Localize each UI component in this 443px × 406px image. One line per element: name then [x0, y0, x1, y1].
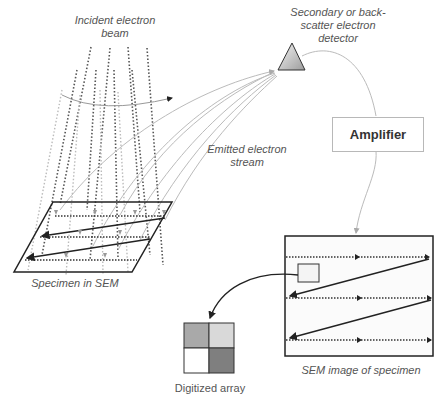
detector-icon: [278, 43, 305, 70]
detector-to-amplifier-connector: [302, 51, 376, 116]
amplifier-box: Amplifier: [332, 117, 424, 152]
sem-image-label: SEM image of specimen: [296, 364, 426, 377]
amplifier-to-image-connector: [356, 151, 376, 233]
specimen-label: Specimen in SEM: [20, 277, 130, 290]
scan-direction-arrow: [62, 95, 172, 106]
incident-beam-lines-light: [28, 90, 128, 275]
digitized-array-label: Digitized array: [160, 382, 260, 395]
incident-beam-lines: [42, 47, 163, 265]
sem-image-frame: [285, 236, 433, 356]
detector-label: Secondary or back-scatter electron detec…: [283, 6, 393, 45]
sample-region-box: [298, 264, 319, 282]
digitized-array: [184, 323, 234, 373]
emitted-stream-label: Emitted electron stream: [202, 143, 292, 169]
sem-diagram: [0, 0, 443, 406]
incident-beam-label: Incident electron beam: [60, 14, 170, 40]
specimen-plane: [14, 202, 172, 272]
